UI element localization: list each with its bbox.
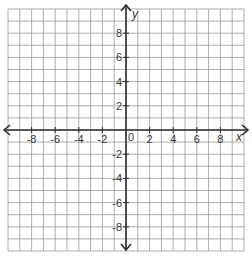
x-tick-label: 6 — [194, 133, 200, 145]
y-tick-label: 8 — [116, 27, 122, 39]
y-tick-label: -4 — [112, 172, 122, 184]
x-tick-label: 2 — [147, 133, 153, 145]
x-tick-label: -2 — [98, 133, 108, 145]
y-tick-label: 4 — [116, 76, 122, 88]
x-tick-label: -6 — [50, 133, 60, 145]
y-tick-label: 2 — [116, 100, 122, 112]
y-tick-label: 6 — [116, 51, 122, 63]
origin-label: 0 — [128, 131, 134, 143]
x-tick-label: 8 — [217, 133, 223, 145]
y-tick-label: -2 — [112, 148, 122, 160]
x-tick-label: 4 — [170, 133, 176, 145]
y-axis-label: y — [131, 7, 139, 21]
x-axis-label: x — [235, 130, 243, 144]
coordinate-plane: -8-6-4-224688642-2-4-6-8 x y 0 — [0, 0, 252, 258]
y-tick-label: -6 — [112, 197, 122, 209]
x-tick-label: -8 — [27, 133, 37, 145]
x-tick-label: -4 — [74, 133, 84, 145]
axes — [4, 5, 248, 250]
y-tick-label: -8 — [112, 221, 122, 233]
